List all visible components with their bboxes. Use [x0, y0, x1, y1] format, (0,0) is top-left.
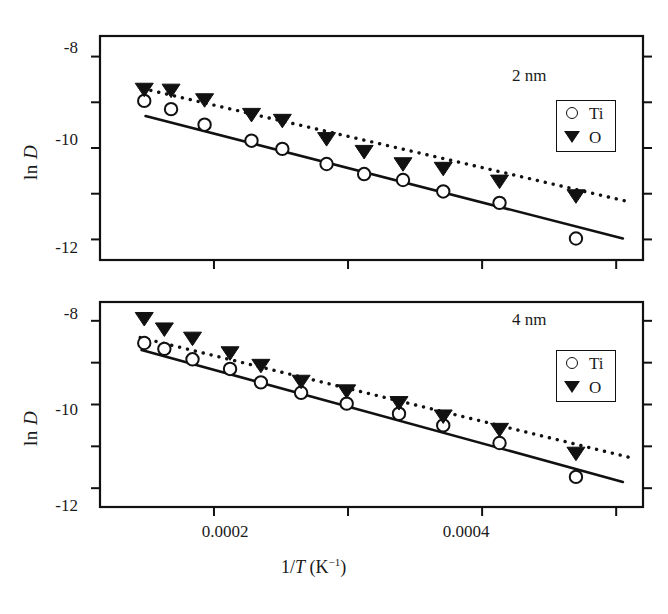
- panel-4nm-xtick-0.0004: 0.0004: [416, 522, 516, 542]
- panel-4nm-xtick-0.0002: 0.0002: [175, 522, 275, 542]
- diffusion-arrhenius-figure: ln D -8 -10 -12 2 nm Ti O ln D -8 -10 -1…: [0, 0, 668, 614]
- panel-4nm-ytick--10: -10: [36, 400, 78, 420]
- open-circle-icon: [564, 107, 580, 119]
- panel-4nm-tag: 4 nm: [512, 310, 546, 330]
- legend-row-ti: Ti: [557, 101, 615, 125]
- legend-row-ti: Ti: [557, 351, 615, 375]
- open-circle-icon: [564, 357, 580, 369]
- panel-2nm-y-axis-label: ln D: [20, 145, 42, 180]
- legend-label-ti: Ti: [589, 105, 604, 122]
- panel-4nm: ln D -8 -10 -12 0.0002 0.0004 1/T (K−1) …: [0, 266, 668, 614]
- filled-triangle-icon: [564, 381, 580, 393]
- panel-2nm: ln D -8 -10 -12 2 nm Ti O: [0, 0, 668, 300]
- filled-triangle-icon: [564, 131, 580, 143]
- panel-2nm-tag: 2 nm: [512, 66, 546, 86]
- panel-2nm-ytick--8: -8: [44, 38, 78, 58]
- panel-2nm-legend: Ti O: [556, 100, 616, 152]
- x-axis-title: 1/T (K−1): [281, 556, 346, 578]
- panel-2nm-ytick--10: -10: [36, 130, 78, 150]
- legend-label-ti: Ti: [589, 355, 604, 372]
- legend-row-o: O: [557, 375, 615, 399]
- panel-4nm-legend: Ti O: [556, 350, 616, 402]
- panel-4nm-ytick--12: -12: [36, 496, 78, 516]
- legend-label-o: O: [589, 379, 601, 396]
- legend-row-o: O: [557, 125, 615, 149]
- panel-2nm-ytick--12: -12: [36, 238, 78, 258]
- legend-label-o: O: [589, 129, 601, 146]
- panel-4nm-ytick--8: -8: [44, 304, 78, 324]
